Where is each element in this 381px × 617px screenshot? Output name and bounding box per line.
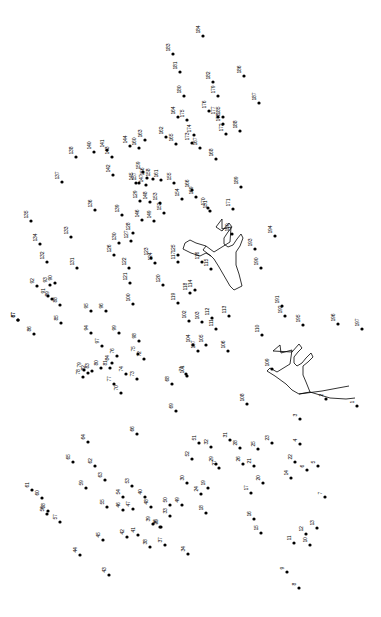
dot-label: 42 [119,529,125,535]
dot-marker [30,488,33,491]
dot-marker [239,185,242,188]
dot-label: 190 [253,257,259,265]
dot-label: 4 [292,439,298,442]
dot-marker [201,34,204,37]
dot-marker [199,492,202,495]
dot-marker [131,507,134,510]
dot-label: 122 [121,257,127,265]
dot-marker [270,441,273,444]
dot-label: 125 [170,244,176,252]
dot-label: 14 [283,470,289,476]
dot-label: 149 [146,210,152,218]
dot-marker [50,297,53,300]
dot-label: 110 [254,325,260,333]
dot-label: 135 [23,210,29,218]
dot-marker [117,241,120,244]
dot-marker [149,505,152,508]
dot-label: 193 [247,238,253,246]
dot-marker [308,543,311,546]
dot-marker [289,476,292,479]
dot-label: 49 [174,497,180,503]
dot-marker [101,538,104,541]
dot-label: 164 [170,106,176,114]
dot-label: 188 [232,120,238,128]
dot-label: 120 [155,274,161,282]
page-background [0,0,381,617]
dot-marker [141,170,144,173]
dot-label: 11 [286,535,292,540]
dot-marker [297,586,300,589]
dot-marker [252,464,255,467]
dot-marker [324,397,327,400]
dot-label: 3 [292,414,298,417]
dot-label: 101 [179,365,185,373]
dot-label: 28 [232,440,238,446]
dot-label: 92 [29,278,35,284]
dot-marker [138,199,141,202]
dot-marker [285,570,288,573]
dot-marker [226,349,229,352]
dot-marker [148,545,151,548]
dot-label: 187 [251,92,257,100]
dot-marker [178,70,181,73]
dot-marker [198,146,201,149]
dot-marker [260,333,263,336]
dot-marker [46,509,49,512]
dot-marker [242,74,245,77]
dot-marker [119,391,122,394]
dot-marker [227,314,230,317]
dot-label: 77 [106,376,112,382]
dot-marker [81,375,84,378]
dot-label: 69 [168,403,174,409]
dot-label: 197 [354,318,360,326]
dot-label: 40 [137,489,143,495]
dot-marker [78,553,81,556]
dot-marker [185,118,188,121]
dot-marker [283,314,286,317]
dot-marker [53,281,56,284]
dot-marker [355,404,358,407]
dot-marker [46,294,49,297]
dot-label: 9 [279,567,285,570]
dot-marker [74,155,77,158]
dot-marker [105,505,108,508]
dot-label: 91 [40,288,46,294]
dot-label: 10 [302,537,308,543]
dot-label: 155 [166,172,172,180]
dot-label: 112 [204,308,210,316]
dot-label: 162 [158,126,164,134]
dot-label: 116 [194,252,200,260]
dot-label: 63 [97,472,103,478]
dot-marker [217,466,220,469]
dot-marker [194,195,197,198]
dot-marker [89,331,92,334]
dot-label: 113 [221,306,227,314]
dot-marker [190,141,193,144]
dot-marker [230,232,233,235]
dot-label: 142 [105,164,111,172]
dot-marker [168,503,171,506]
dot-label: 17 [243,485,249,491]
dot-marker [180,503,183,506]
dot-label: 128 [125,222,131,230]
dot-marker [89,309,92,312]
dot-marker [174,409,177,412]
dot-label: 170 [200,197,206,205]
dot-marker [273,234,276,237]
dot-label: 94 [83,325,89,331]
dot-label: 55 [99,499,105,505]
dot-marker [238,446,241,449]
dot-marker [135,432,138,435]
dot-marker [161,283,164,286]
dot-label: 134 [32,233,38,241]
dot-marker [206,486,209,489]
dot-label: 6 [299,465,305,468]
dot-marker [214,462,217,465]
dot-label: 196 [330,313,336,321]
dot-marker [293,460,296,463]
dot-label: 5 [310,461,316,464]
dot-label: 99 [111,325,117,331]
dot-label: 111 [208,319,214,327]
dot-label: 175 [179,109,185,117]
dot-marker [129,239,132,242]
